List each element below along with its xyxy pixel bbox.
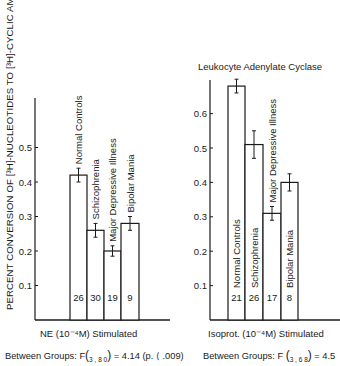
y-tick-label: 0.2 [194, 246, 207, 257]
y-axis-label: PERCENT CONVERSION OF [³H]-NUCLEOTIDES T… [4, 0, 15, 310]
figure: PERCENT CONVERSION OF [³H]-NUCLEOTIDES T… [0, 0, 340, 366]
category-label: Normal Controls [231, 219, 242, 288]
y-tick-label: 0.4 [19, 177, 32, 188]
sample-size: 21 [231, 292, 242, 303]
bar [121, 223, 139, 320]
left-stats-subscript: 3 , 8 0 [89, 356, 107, 363]
y-tick-label: 0.5 [194, 143, 207, 154]
y-tick-label: 0.1 [194, 280, 207, 291]
y-tick-label: 0.5 [19, 142, 32, 153]
right-stats-prefix: Between Groups: F [203, 351, 286, 361]
category-label: Major Depressive Illness [107, 138, 118, 242]
right-chart-title: Leukocyte Adenylate Cyclase [198, 61, 322, 72]
y-tick-label: 0.3 [194, 211, 207, 222]
y-tick-label: 0.6 [194, 108, 207, 119]
sample-size: 9 [127, 292, 132, 303]
category-label: Major Depressive Illness [267, 99, 278, 203]
bar [104, 251, 121, 320]
y-tick-label: 0.2 [19, 246, 32, 257]
category-label: Schizophrenia [249, 227, 260, 288]
left-chart: 0.10.20.30.40.526Normal Controls30Schizo… [19, 95, 170, 320]
sample-size: 30 [90, 292, 101, 303]
left-stats-suffix: = 4.14 (p. ⟨ .009) [111, 351, 183, 361]
sample-size: 8 [287, 292, 292, 303]
bar [263, 213, 281, 320]
category-label: Bipolar Mania [284, 229, 295, 288]
right-stats-suffix: = 4.5 [312, 351, 336, 361]
category-label: Normal Controls [73, 95, 84, 164]
left-stats-prefix: Between Groups: F [5, 351, 85, 361]
sample-size: 19 [107, 292, 118, 303]
y-tick-label: 0.3 [19, 211, 32, 222]
right-stats-subscript: 3 , 6 8 [290, 356, 308, 363]
sample-size: 17 [267, 292, 278, 303]
y-tick-label: 0.4 [194, 177, 207, 188]
sample-size: 26 [249, 292, 260, 303]
left-stats: Between Groups: F(3 , 8 0) = 4.14 (p. ⟨ … [5, 348, 184, 363]
bar [87, 230, 104, 320]
left-x-axis-label: NE (10⁻⁴M) Stimulated [40, 328, 137, 339]
category-label: Bipolar Mania [125, 154, 136, 213]
right-x-axis-label: Isoprot. (10⁻⁴M) Stimulated [208, 328, 324, 339]
y-tick-label: 0.1 [19, 280, 32, 291]
right-chart: 0.10.20.30.40.50.621Normal Controls26Sch… [194, 79, 340, 320]
right-stats: Between Groups: F (3 , 6 8) = 4.5 [203, 348, 335, 363]
sample-size: 26 [73, 292, 84, 303]
category-label: Schizophrenia [90, 158, 101, 219]
